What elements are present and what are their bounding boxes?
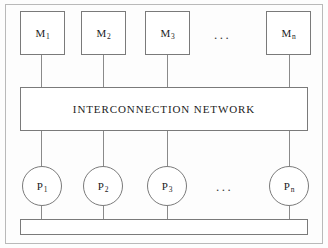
- interconnection-network-label: INTERCONNECTION NETWORK: [73, 103, 255, 115]
- memory-module-label: M3: [161, 28, 175, 39]
- link-memory-to-network: [41, 55, 42, 87]
- diagram-canvas: M1M2M3Mn... INTERCONNECTION NETWORK P1P2…: [0, 0, 328, 248]
- link-network-to-processor: [289, 131, 290, 166]
- interconnection-network-box[interactable]: INTERCONNECTION NETWORK: [20, 87, 308, 131]
- link-network-to-processor: [103, 131, 104, 166]
- memory-module-label: Mn: [282, 28, 296, 39]
- processor-p3[interactable]: P3: [147, 166, 187, 206]
- system-bus-bar[interactable]: [20, 219, 308, 235]
- memory-row-ellipsis: ...: [214, 28, 231, 41]
- link-network-to-processor: [167, 131, 168, 166]
- processor-label-subscript: 2: [105, 185, 109, 194]
- link-processor-to-bus: [41, 206, 42, 219]
- processor-label-subscript: 1: [44, 185, 48, 194]
- processor-row-ellipsis: ...: [216, 180, 233, 193]
- link-memory-to-network: [103, 55, 104, 87]
- memory-module-m3[interactable]: M3: [145, 11, 190, 55]
- processor-label: P3: [162, 181, 172, 192]
- memory-module-label-subscript: 3: [171, 32, 175, 41]
- processor-label-subscript: 3: [169, 185, 173, 194]
- memory-module-label: M1: [36, 28, 50, 39]
- memory-module-label: M2: [97, 28, 111, 39]
- link-memory-to-network: [289, 55, 290, 87]
- processor-p1[interactable]: P1: [22, 166, 62, 206]
- memory-module-m2[interactable]: M2: [81, 11, 126, 55]
- memory-module-label-subscript: 1: [46, 32, 50, 41]
- processor-pn[interactable]: Pn: [269, 166, 309, 206]
- processor-p2[interactable]: P2: [83, 166, 123, 206]
- memory-module-label-subscript: 2: [107, 32, 111, 41]
- memory-module-label-subscript: n: [292, 32, 296, 41]
- processor-label-subscript: n: [291, 185, 295, 194]
- memory-module-mn[interactable]: Mn: [266, 11, 311, 55]
- link-processor-to-bus: [103, 206, 104, 219]
- processor-label: P1: [37, 181, 47, 192]
- link-processor-to-bus: [167, 206, 168, 219]
- memory-module-m1[interactable]: M1: [20, 11, 65, 55]
- link-processor-to-bus: [289, 206, 290, 219]
- link-network-to-processor: [41, 131, 42, 166]
- processor-label: Pn: [284, 181, 294, 192]
- processor-label: P2: [98, 181, 108, 192]
- link-memory-to-network: [167, 55, 168, 87]
